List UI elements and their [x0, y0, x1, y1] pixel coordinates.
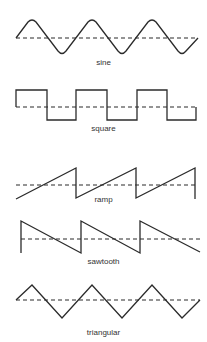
waveform-diagram [0, 0, 207, 342]
sine-wave [16, 20, 198, 54]
triangular-label: triangular [0, 328, 207, 337]
triangular-curve [16, 285, 200, 318]
square-curve [16, 90, 196, 120]
sine-label: sine [0, 58, 207, 67]
sawtooth-wave [21, 221, 200, 253]
triangular-wave [16, 285, 200, 318]
sine-curve [16, 20, 198, 54]
sawtooth-label: sawtooth [0, 257, 207, 266]
square-wave [16, 90, 196, 120]
sawtooth-curve [21, 221, 200, 253]
square-label: square [0, 124, 207, 133]
ramp-label: ramp [0, 195, 207, 204]
